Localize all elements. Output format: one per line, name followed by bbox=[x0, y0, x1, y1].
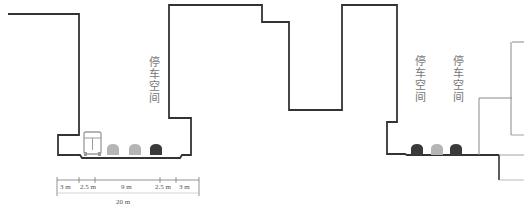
dimension-3m-right: 3 m bbox=[179, 183, 190, 191]
car-icon bbox=[150, 144, 162, 155]
adjacent-building-thin bbox=[479, 98, 512, 155]
car-icon bbox=[411, 144, 423, 155]
car-icon bbox=[431, 144, 443, 155]
parking-space-label-right-1: 停车空间 bbox=[413, 55, 425, 103]
dimension-2-5m-left: 2.5 m bbox=[80, 183, 96, 191]
dimension-total: 20 m bbox=[116, 198, 130, 206]
dimension-2-5m-right: 2.5 m bbox=[155, 183, 171, 191]
car-icon bbox=[129, 144, 141, 155]
parking-space-label-right-2: 停车空间 bbox=[451, 55, 463, 103]
dimension-9m: 9 m bbox=[121, 183, 132, 191]
car-icon bbox=[107, 144, 119, 155]
section-drawing bbox=[0, 0, 529, 208]
bus-icon bbox=[84, 132, 101, 156]
car-icon bbox=[450, 144, 462, 155]
street-section-diagram: 停车空间 停车空间 停车空间 3 m 2.5 m 9 m 2.5 m 3 m 2… bbox=[0, 0, 529, 208]
dimension-3m-left: 3 m bbox=[60, 183, 71, 191]
parking-space-label-left: 停车空间 bbox=[147, 56, 159, 104]
